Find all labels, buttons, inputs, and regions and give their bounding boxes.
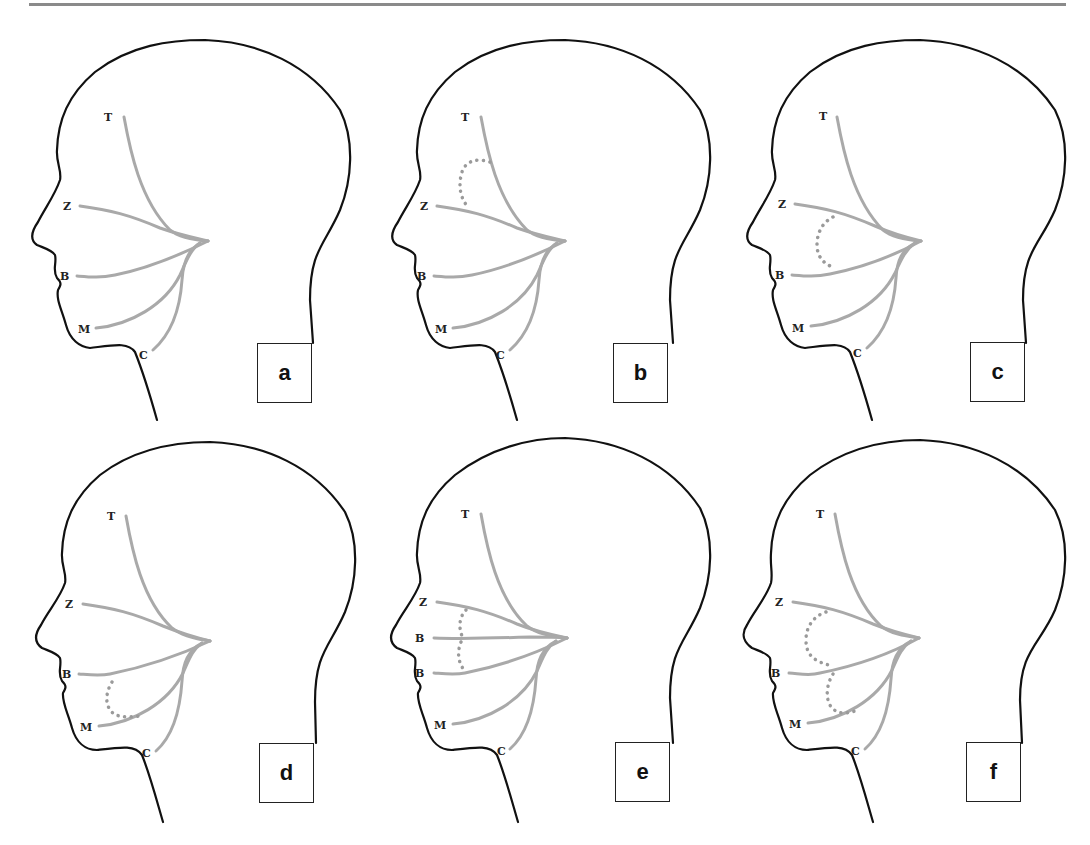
panel-d: T Z B M C d <box>0 420 370 840</box>
panel-label-box: b <box>613 343 668 403</box>
head-outline-diagram <box>360 0 730 420</box>
branch-label-m: M <box>80 722 92 733</box>
branch-label-z: Z <box>65 599 73 610</box>
branch-label-c: C <box>142 748 151 759</box>
branch-label-t: T <box>461 112 469 123</box>
nerve-buccal-upper <box>434 637 567 638</box>
nerve-temporal <box>126 516 210 641</box>
branch-label-t: T <box>816 509 824 520</box>
branch-label-m: M <box>434 720 446 731</box>
branch-label-z: Z <box>63 201 71 212</box>
anastomosis-loop-upper <box>460 610 466 636</box>
branch-label-m: M <box>78 324 90 335</box>
panel-letter: b <box>634 360 647 386</box>
branch-label-z: Z <box>420 201 428 212</box>
nerve-mandibular <box>811 243 915 326</box>
panel-label-box: f <box>966 742 1021 802</box>
panel-a: T Z B M C a <box>0 0 370 420</box>
nerve-temporal <box>481 117 565 241</box>
anastomosis-loop <box>107 682 140 717</box>
branch-label-t: T <box>819 111 827 122</box>
anastomosis-loop <box>817 217 835 268</box>
panel-letter: e <box>636 759 648 785</box>
anastomosis-loop-lower <box>459 642 464 670</box>
nerve-mandibular <box>99 643 202 726</box>
panel-e: T Z B B M C e <box>360 420 730 840</box>
anastomosis-loop <box>460 160 490 207</box>
nerve-temporal <box>481 514 567 638</box>
panel-label-box: e <box>615 742 670 802</box>
branch-label-t: T <box>107 511 115 522</box>
branch-label-b-lower: B <box>415 668 424 679</box>
panel-c: T Z B M C c <box>720 0 1090 420</box>
branch-label-b: B <box>771 668 780 679</box>
nerve-zygomatic <box>80 206 208 241</box>
nerve-temporal <box>837 117 921 241</box>
branch-label-b: B <box>417 271 426 282</box>
panel-f: T Z B M C f <box>720 420 1090 840</box>
branch-label-b-upper: B <box>415 633 424 644</box>
branch-label-c: C <box>496 350 505 361</box>
nerve-zygomatic <box>83 604 210 641</box>
branch-label-m: M <box>792 323 804 334</box>
nerve-mandibular <box>808 641 911 723</box>
nerve-mandibular <box>453 243 557 328</box>
nerve-zygomatic <box>437 206 565 241</box>
nerve-buccal-lower <box>434 638 567 674</box>
branch-label-m: M <box>435 324 447 335</box>
nerve-mandibular <box>453 641 556 724</box>
branch-label-b: B <box>60 271 69 282</box>
branch-label-z: Z <box>775 597 783 608</box>
branch-label-t: T <box>104 112 112 123</box>
branch-label-m: M <box>789 719 801 730</box>
head-outline-diagram <box>720 0 1090 420</box>
nerve-cervical <box>867 243 915 348</box>
branch-label-c: C <box>851 746 860 757</box>
panel-b: T Z B M C b <box>360 0 730 420</box>
branch-label-b: B <box>775 270 784 281</box>
branch-label-t: T <box>461 509 469 520</box>
panel-letter: c <box>991 359 1003 385</box>
head-outline-diagram <box>720 420 1090 845</box>
anastomosis-loop-lower <box>827 674 855 713</box>
head-outline-diagram <box>0 0 370 420</box>
panel-label-box: a <box>257 343 312 403</box>
head-outline-diagram <box>0 420 370 845</box>
nerve-zygomatic <box>793 602 919 638</box>
panel-letter: a <box>278 360 290 386</box>
branch-label-c: C <box>139 350 148 361</box>
nerve-cervical <box>153 243 200 350</box>
branch-label-z: Z <box>419 597 427 608</box>
nerve-zygomatic <box>437 602 567 638</box>
branch-label-z: Z <box>778 199 786 210</box>
panel-letter: d <box>280 760 293 786</box>
branch-label-b: B <box>62 669 71 680</box>
panel-label-box: d <box>259 743 314 803</box>
nerve-zygomatic <box>795 204 921 241</box>
nerve-temporal <box>124 117 208 241</box>
panel-label-box: c <box>970 342 1025 402</box>
nerve-temporal <box>835 514 919 638</box>
branch-label-c: C <box>497 746 506 757</box>
branch-label-c: C <box>853 348 862 359</box>
nerve-mandibular <box>96 243 200 328</box>
nerve-cervical <box>510 243 557 350</box>
anastomosis-loop-upper <box>806 612 833 666</box>
panel-letter: f <box>990 759 997 785</box>
